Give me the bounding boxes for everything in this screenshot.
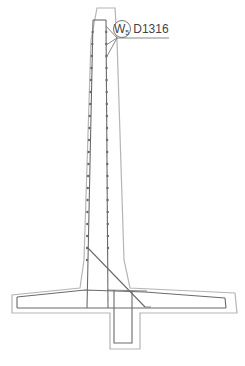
haunch-diagonal-bar: [87, 247, 145, 307]
wall-section-drawing: [0, 0, 245, 366]
rebar-callout: W 5 D1316: [114, 21, 169, 37]
callout-bar-size: D1316: [133, 21, 168, 37]
callout-mark: W: [114, 21, 125, 37]
footing-right-hook: [225, 298, 226, 308]
shear-key-stirrup: [114, 290, 132, 343]
concrete-outline: [12, 8, 237, 349]
callout-mark-subscript: 5: [125, 29, 129, 36]
